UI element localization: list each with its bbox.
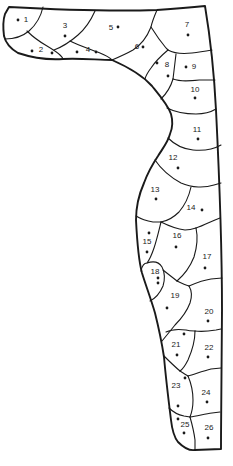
- boundary-22-24: [188, 368, 221, 376]
- region-label-14: 14: [187, 203, 196, 212]
- region-dot-2: [31, 50, 34, 53]
- region-label-6: 6: [135, 42, 140, 51]
- region-dot-4: [95, 51, 98, 54]
- region-dot-16: [175, 246, 178, 249]
- region-dot-26: [207, 437, 210, 440]
- boundary-12-13: [155, 160, 221, 187]
- region-label-10: 10: [191, 85, 200, 94]
- region-label-25: 25: [181, 420, 190, 429]
- region-dot-18: [157, 282, 160, 285]
- region-label-5: 5: [109, 23, 114, 32]
- boundary-13-15: [136, 216, 161, 222]
- boundary-23-24: [188, 376, 193, 417]
- region-dot-21: [183, 333, 186, 336]
- region-dot-24: [206, 401, 209, 404]
- region-map-svg: 1234567891011121314151617181920212223242…: [0, 0, 233, 466]
- boundary-25-26: [190, 417, 195, 450]
- region-label-8: 8: [165, 60, 170, 69]
- boundary-11-12: [168, 138, 221, 150]
- region-label-13: 13: [151, 185, 160, 194]
- region-label-9: 9: [192, 62, 197, 71]
- boundary-16-19: [163, 270, 177, 281]
- region-dot-2: [51, 52, 54, 55]
- region-dot-8: [156, 62, 159, 65]
- boundary-8-9: [173, 54, 176, 79]
- boundary-9-10: [173, 79, 215, 81]
- boundary-6-7: [151, 27, 168, 50]
- region-label-18: 18: [151, 267, 160, 276]
- region-map-outline: [3, 6, 222, 450]
- boundary-14-16: [161, 222, 196, 230]
- region-dot-20: [207, 320, 210, 323]
- region-dot-6: [142, 46, 145, 49]
- region-label-4: 4: [86, 45, 91, 54]
- boundary-20-22: [195, 329, 221, 331]
- region-dot-10: [194, 97, 197, 100]
- boundary-7-8: [168, 50, 212, 54]
- region-dot-18: [157, 277, 160, 280]
- region-label-2: 2: [39, 45, 44, 54]
- boundary-4-5: [70, 41, 112, 60]
- region-dot-15: [148, 232, 151, 235]
- region-dot-1: [17, 19, 20, 22]
- boundary-17-20: [189, 278, 222, 286]
- region-label-12: 12: [169, 153, 178, 162]
- region-label-21: 21: [172, 340, 181, 349]
- region-dot-22: [207, 356, 210, 359]
- region-label-17: 17: [203, 252, 212, 261]
- region-dot-19: [166, 307, 169, 310]
- region-label-3: 3: [63, 21, 68, 30]
- region-map-diagram: 1234567891011121314151617181920212223242…: [0, 0, 233, 466]
- region-dot-9: [185, 66, 188, 69]
- region-dot-4: [76, 51, 79, 54]
- region-dot-8: [167, 75, 170, 78]
- region-dot-11: [197, 138, 200, 141]
- boundary-21-23: [164, 356, 180, 371]
- boundary-10-11: [167, 108, 216, 114]
- boundary-24-26: [190, 412, 220, 417]
- region-dot-14: [201, 209, 204, 212]
- region-label-24: 24: [202, 388, 211, 397]
- boundary-22-23: [180, 371, 188, 376]
- region-label-16: 16: [173, 231, 182, 240]
- region-label-22: 22: [205, 343, 214, 352]
- boundary-14-17: [196, 218, 220, 228]
- boundary-5-7: [112, 10, 157, 60]
- region-dot-12: [177, 167, 180, 170]
- region-label-1: 1: [24, 15, 29, 24]
- region-label-20: 20: [205, 307, 214, 316]
- boundary-2-3: [27, 31, 63, 59]
- region-dot-15: [146, 251, 149, 254]
- region-label-26: 26: [205, 423, 214, 432]
- region-dot-5: [117, 26, 120, 29]
- region-label-15: 15: [143, 237, 152, 246]
- region-dot-17: [204, 267, 207, 270]
- region-label-7: 7: [185, 20, 190, 29]
- boundary-8-10: [161, 79, 173, 99]
- region-dot-23: [177, 405, 180, 408]
- region-dot-25: [183, 432, 186, 435]
- region-dot-23: [184, 377, 187, 380]
- region-dot-13: [155, 198, 158, 201]
- region-dot-21: [176, 354, 179, 357]
- region-dot-3: [64, 35, 67, 38]
- region-label-19: 19: [171, 291, 180, 300]
- region-dot-7: [187, 34, 190, 37]
- region-dot-25: [177, 418, 180, 421]
- boundary-21-22: [180, 331, 195, 371]
- boundary-23-25: [169, 408, 190, 417]
- region-label-11: 11: [193, 125, 202, 134]
- boundary-17-19: [177, 281, 189, 286]
- region-label-23: 23: [172, 381, 181, 390]
